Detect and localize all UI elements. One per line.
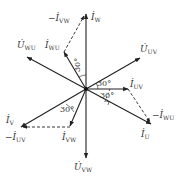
angle-label-top: 30° <box>73 58 82 72</box>
right-angle-mark <box>106 101 109 105</box>
label-u-uv: U̇UV <box>140 43 158 55</box>
label-i-v: İV <box>5 114 15 126</box>
label-u-vw: U̇VW <box>74 161 93 173</box>
label-i-u: İU <box>140 128 150 140</box>
angle-label-right-lower: 30° <box>100 91 114 100</box>
label-neg-i-vw: −İVW <box>48 12 70 24</box>
origin-dot <box>84 87 88 91</box>
phasor-i-u <box>86 89 151 124</box>
label-u-wu: U̇WU <box>17 39 36 51</box>
label-i-w: İW <box>90 11 102 23</box>
angle-arc-top <box>79 75 86 77</box>
label-i-uv: İUV <box>129 78 144 90</box>
angle-label-right-upper: 30° <box>97 79 111 88</box>
angle-label-left-lower: 30° <box>60 105 74 114</box>
phasor-diagram: 30° 30° 30° 30° −İVW İW U̇WU İWU U̇UV İU… <box>0 0 186 177</box>
label-i-wu: İWU <box>44 39 60 51</box>
label-i-vw: İVW <box>61 131 77 143</box>
phasor-i-v <box>21 89 86 127</box>
label-neg-i-wu: −İWU <box>152 109 174 121</box>
label-neg-i-uv: −İUV <box>5 131 26 143</box>
